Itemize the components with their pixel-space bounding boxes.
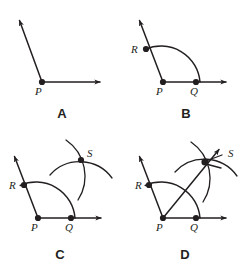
angle-bisector-figure: P A P Q R B P Q bbox=[0, 0, 249, 272]
panel-a: P A bbox=[20, 21, 101, 122]
figure-canvas: P A P Q R B P Q bbox=[0, 0, 249, 272]
panel-c-label-r: R bbox=[8, 179, 16, 191]
panel-c-point-s bbox=[78, 157, 84, 163]
panel-c-point-r bbox=[21, 182, 27, 188]
panel-c-ray-upper bbox=[15, 157, 39, 219]
panel-d-label-r: R bbox=[134, 179, 142, 191]
panel-d: R P Q S D bbox=[134, 142, 237, 262]
panel-b-caption: B bbox=[181, 106, 190, 121]
panel-a-label-p: P bbox=[34, 85, 42, 97]
panel-c-arc-from-q bbox=[66, 140, 85, 200]
panel-b-ray-upper bbox=[140, 21, 164, 83]
panel-d-arc-rq bbox=[145, 182, 200, 218]
panel-d-label-p: P bbox=[155, 221, 163, 233]
panel-a-ray-upper bbox=[20, 21, 43, 83]
panel-b-label-r: R bbox=[130, 43, 138, 55]
panel-d-label-s: S bbox=[228, 147, 234, 159]
panel-c: P Q R S C bbox=[8, 140, 112, 262]
panel-c-caption: C bbox=[55, 247, 65, 262]
panel-d-caption: D bbox=[180, 247, 189, 262]
panel-d-point-r bbox=[146, 182, 152, 188]
panel-d-label-q: Q bbox=[190, 221, 198, 233]
panel-c-arc-from-r bbox=[50, 162, 112, 178]
panel-b-arc-rq bbox=[145, 46, 200, 82]
panel-b: P Q R B bbox=[130, 21, 226, 122]
panel-b-point-r bbox=[143, 46, 149, 52]
panel-b-label-p: P bbox=[155, 85, 163, 97]
panel-b-label-q: Q bbox=[190, 85, 198, 97]
panel-a-caption: A bbox=[57, 106, 67, 121]
panel-c-arc-rq bbox=[20, 182, 75, 218]
panel-c-label-q: Q bbox=[65, 221, 73, 233]
panel-c-label-s: S bbox=[87, 147, 93, 159]
panel-d-ray-upper bbox=[140, 157, 164, 219]
panel-c-label-p: P bbox=[30, 221, 38, 233]
